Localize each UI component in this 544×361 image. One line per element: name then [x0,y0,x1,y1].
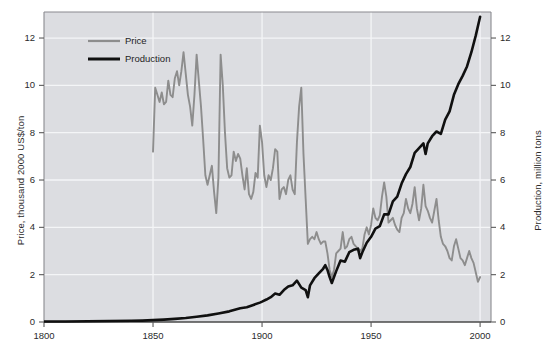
chart-figure: Price, thousand 2000 US$/ton Production,… [0,0,544,361]
y-axis-left-tick-4: 8 [5,127,35,138]
legend-label-production: Production [125,53,170,64]
x-axis-tick-2: 1900 [240,330,284,341]
x-axis-tick-3: 1950 [349,330,393,341]
y-axis-left-tick-2: 4 [5,221,35,232]
chart-plot-area [0,0,544,361]
x-axis-tick-4: 2000 [458,330,502,341]
y-axis-left-tick-6: 12 [5,32,35,43]
x-axis-tick-1: 1850 [131,330,175,341]
y-axis-left-tick-1: 2 [5,269,35,280]
y-axis-left-tick-3: 6 [5,174,35,185]
y-axis-left-tick-5: 10 [5,79,35,90]
legend-label-price: Price [125,35,147,46]
x-axis-tick-0: 1800 [22,330,66,341]
y-axis-right-tick-6: 12 [500,32,530,43]
y-axis-left-tick-0: 0 [5,316,35,327]
y-axis-right-tick-3: 6 [500,174,530,185]
y-axis-right-tick-1: 2 [500,269,530,280]
y-axis-right-tick-4: 8 [500,127,530,138]
y-axis-right-tick-2: 4 [500,221,530,232]
y-axis-right-tick-5: 10 [500,79,530,90]
y-axis-right-tick-0: 0 [500,316,530,327]
